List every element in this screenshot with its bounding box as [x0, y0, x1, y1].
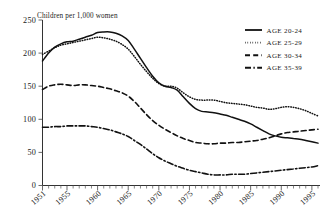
legend-label-age-30-34: AGE 30-34	[267, 52, 303, 60]
x-tick-label: 1965	[115, 189, 134, 207]
chart-legend: AGE 20-24AGE 25-29AGE 30-34AGE 35-39	[245, 27, 302, 73]
y-tick-group: 050100150200250	[23, 16, 42, 191]
series-line-age-35-39	[43, 126, 319, 175]
chart-axis-title: Children per 1,000 women	[37, 12, 118, 20]
legend-label-age-35-39: AGE 35-39	[267, 64, 303, 72]
x-tick-label: 1980	[207, 189, 226, 207]
x-tick-label: 1970	[145, 189, 164, 207]
y-tick-label: 150	[23, 82, 36, 91]
fertility-rate-line-chart: Children per 1,000 women 050100150200250…	[0, 0, 329, 221]
legend-label-age-25-29: AGE 25-29	[267, 39, 303, 47]
legend-label-age-20-24: AGE 20-24	[267, 27, 303, 35]
x-tick-label: 1985	[237, 189, 256, 207]
y-tick-label: 0	[32, 181, 36, 190]
x-tick-label: 1955	[54, 189, 73, 207]
x-tick-label: 1975	[176, 189, 195, 207]
chart-page: Children per 1,000 women 050100150200250…	[0, 0, 329, 221]
x-tick-label: 1990	[268, 189, 287, 207]
y-tick-label: 200	[23, 49, 36, 58]
y-tick-label: 250	[23, 16, 36, 25]
x-tick-group: 1951195519601965197019751980198519901995	[29, 186, 318, 207]
y-tick-label: 100	[23, 115, 36, 124]
y-tick-label: 50	[27, 148, 36, 157]
x-tick-label: 1960	[84, 189, 103, 207]
x-tick-label: 1995	[298, 189, 317, 207]
x-tick-label: 1951	[29, 189, 48, 207]
series-line-age-25-29	[43, 37, 319, 116]
